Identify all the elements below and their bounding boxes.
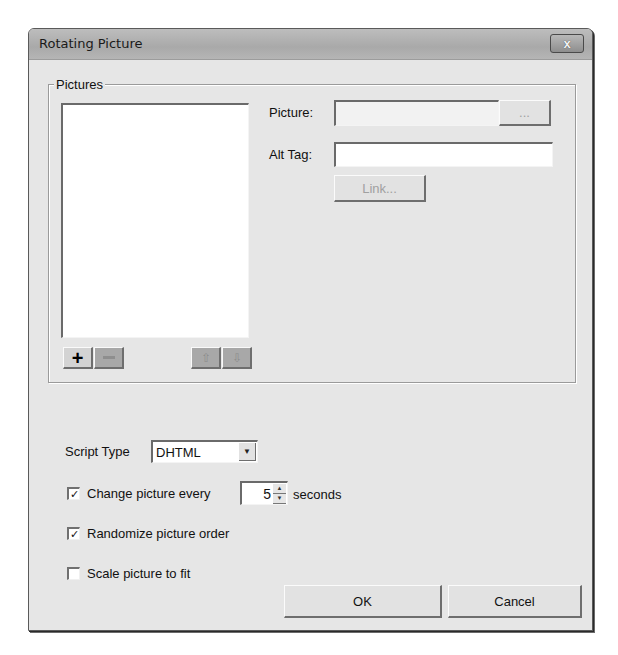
interval-value: 5: [263, 486, 271, 502]
alt-tag-label: Alt Tag:: [269, 147, 312, 162]
close-icon: x: [563, 36, 570, 51]
change-picture-checkbox[interactable]: ✓: [67, 487, 80, 500]
alt-tag-input[interactable]: [334, 142, 553, 167]
move-up-button[interactable]: ⇧: [191, 347, 221, 369]
interval-spinner[interactable]: 5 ▲ ▼: [240, 481, 288, 505]
seconds-label: seconds: [293, 487, 341, 502]
title-bar[interactable]: Rotating Picture x: [29, 29, 592, 60]
spinner-buttons: ▲ ▼: [273, 484, 286, 503]
change-picture-row: ✓ Change picture every: [67, 486, 211, 501]
pictures-group-label: Pictures: [54, 77, 105, 92]
picture-label: Picture:: [269, 105, 313, 120]
remove-picture-button[interactable]: [94, 347, 124, 369]
dialog-client-area: Pictures + ⇧ ⇩ Picture: ... Alt Tag: Lin…: [29, 60, 592, 630]
randomize-row: ✓ Randomize picture order: [67, 526, 229, 541]
spin-up-icon[interactable]: ▲: [273, 484, 286, 494]
scale-checkbox[interactable]: [67, 567, 80, 580]
pictures-listbox[interactable]: [61, 103, 249, 338]
browse-button[interactable]: ...: [499, 100, 551, 126]
arrow-down-icon: ⇩: [232, 351, 242, 365]
dialog-title: Rotating Picture: [39, 36, 143, 51]
arrow-up-icon: ⇧: [201, 351, 211, 365]
script-type-select[interactable]: DHTML ▼: [151, 440, 258, 463]
cancel-button[interactable]: Cancel: [448, 585, 582, 618]
picture-input[interactable]: [334, 100, 499, 126]
spin-down-icon[interactable]: ▼: [273, 494, 286, 504]
close-button[interactable]: x: [550, 34, 584, 53]
move-down-button[interactable]: ⇩: [222, 347, 252, 369]
pictures-groupbox: Pictures + ⇧ ⇩ Picture: ... Alt Tag: Lin…: [48, 84, 576, 383]
script-type-label: Script Type: [65, 444, 130, 459]
script-type-value: DHTML: [156, 445, 201, 460]
rotating-picture-dialog: Rotating Picture x Pictures + ⇧ ⇩ Pictur…: [28, 28, 593, 631]
scale-row: Scale picture to fit: [67, 566, 190, 581]
scale-label: Scale picture to fit: [87, 566, 190, 581]
minus-icon: [103, 356, 115, 359]
ok-button[interactable]: OK: [284, 585, 442, 618]
change-picture-label: Change picture every: [87, 486, 211, 501]
link-button[interactable]: Link...: [334, 175, 426, 202]
randomize-checkbox[interactable]: ✓: [67, 527, 80, 540]
add-picture-button[interactable]: +: [63, 347, 93, 369]
randomize-label: Randomize picture order: [87, 526, 229, 541]
chevron-down-icon[interactable]: ▼: [239, 443, 256, 461]
plus-icon: +: [72, 348, 84, 368]
